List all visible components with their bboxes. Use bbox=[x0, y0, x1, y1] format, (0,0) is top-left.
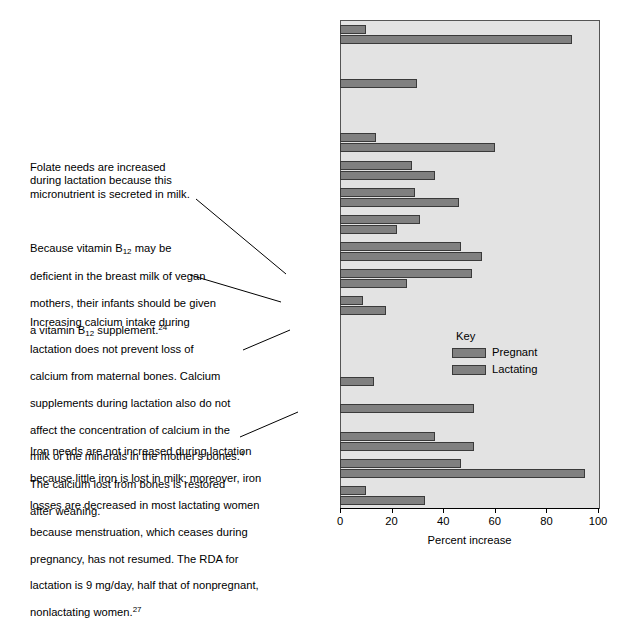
bar-pregnant-niacin bbox=[340, 215, 420, 224]
annotation-b12-line2: deficient in the breast milk of vegan bbox=[30, 270, 205, 282]
x-tick-20 bbox=[392, 508, 393, 513]
bar-lactating-vitamin-a bbox=[340, 35, 572, 44]
bar-pregnant-vitamin-c bbox=[340, 133, 376, 142]
bar-lactating-riboflavin bbox=[340, 198, 459, 207]
annotation-fe-line2: because little iron is lost in milk; mor… bbox=[30, 472, 261, 484]
bar-pregnant-iodine bbox=[340, 459, 461, 468]
legend-item-pregnant: Pregnant bbox=[452, 347, 537, 358]
x-tick-40 bbox=[443, 508, 444, 513]
annotation-fe-line6: lactation is 9 mg/day, half that of nonp… bbox=[30, 579, 259, 591]
annotation-fe-sup1: 27 bbox=[133, 605, 142, 614]
x-tick-60 bbox=[495, 508, 496, 513]
x-axis-line bbox=[340, 508, 599, 509]
bar-lactating-niacin bbox=[340, 225, 397, 234]
bar-lactating-vitamin-b6 bbox=[340, 252, 482, 261]
x-tick-label-60: 60 bbox=[475, 515, 515, 527]
legend-swatch-lactating bbox=[452, 365, 486, 375]
bar-pregnant-vitamin-b12 bbox=[340, 296, 363, 305]
annotation-ca-line1: Increasing calcium intake during bbox=[30, 316, 190, 328]
bar-pregnant-folate bbox=[340, 269, 472, 278]
annotation-folate: Folate needs are increased during lactat… bbox=[30, 161, 245, 201]
legend-item-lactating: Lactating bbox=[452, 364, 537, 375]
annotation-fe-line3: losses are decreased in most lactating w… bbox=[30, 499, 259, 511]
annotation-b12-line1: Because vitamin B bbox=[30, 242, 123, 254]
legend: Key Pregnant Lactating bbox=[452, 330, 537, 381]
bar-lactating-selenium bbox=[340, 496, 425, 505]
annotation-ca-line3: calcium from maternal bones. Calcium bbox=[30, 370, 220, 382]
bar-lactating-vitamin-c bbox=[340, 143, 495, 152]
annotation-fe-line5: pregnancy, has not resumed. The RDA for bbox=[30, 553, 239, 565]
bar-lactating-vitamin-b12 bbox=[340, 306, 386, 315]
bar-pregnant-thiamin bbox=[340, 161, 412, 170]
x-tick-label-0: 0 bbox=[320, 515, 360, 527]
annotation-fe-line7: nonlactating women. bbox=[30, 606, 133, 618]
x-tick-0 bbox=[340, 508, 341, 513]
annotation-ca-line4: supplements during lactation also do not bbox=[30, 397, 230, 409]
annotation-b12-line1b: may be bbox=[132, 242, 172, 254]
annotation-fe-line4: because menstruation, which ceases durin… bbox=[30, 526, 248, 538]
x-tick-label-20: 20 bbox=[372, 515, 412, 527]
legend-title: Key bbox=[456, 330, 537, 342]
bar-pregnant-vitamin-a bbox=[340, 25, 366, 34]
bar-pregnant-iron bbox=[340, 404, 474, 413]
bar-lactating-folate bbox=[340, 279, 407, 288]
bar-pregnant-vitamin-b6 bbox=[340, 242, 461, 251]
bar-pregnant-selenium bbox=[340, 486, 366, 495]
annotation-ca-line2: lactation does not prevent loss of bbox=[30, 343, 194, 355]
bar-pregnant-magnesium bbox=[340, 377, 374, 386]
x-tick-label-40: 40 bbox=[423, 515, 463, 527]
x-tick-100 bbox=[598, 508, 599, 513]
annotation-b12-sub1: 12 bbox=[123, 247, 132, 256]
x-tick-label-100: 100 bbox=[578, 515, 618, 527]
bar-pregnant-vitamin-e bbox=[340, 79, 417, 88]
annotation-iron: Iron needs are not increased during lact… bbox=[30, 432, 290, 621]
x-tick-80 bbox=[546, 508, 547, 513]
annotation-fe-line1: Iron needs are not increased during lact… bbox=[30, 445, 251, 457]
x-axis-title: Percent increase bbox=[340, 534, 599, 546]
bar-lactating-thiamin bbox=[340, 171, 435, 180]
x-tick-label-80: 80 bbox=[526, 515, 566, 527]
bar-pregnant-zinc bbox=[340, 432, 435, 441]
bar-pregnant-riboflavin bbox=[340, 188, 415, 197]
legend-swatch-pregnant bbox=[452, 348, 486, 358]
legend-label-lactating: Lactating bbox=[492, 364, 537, 375]
bar-lactating-zinc bbox=[340, 442, 474, 451]
legend-label-pregnant: Pregnant bbox=[492, 347, 537, 358]
bar-lactating-iodine bbox=[340, 469, 585, 478]
